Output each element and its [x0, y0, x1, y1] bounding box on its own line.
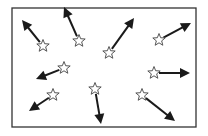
arrow-shaft: [44, 70, 59, 76]
vector-v2: [63, 7, 85, 46]
arrow-shaft: [36, 98, 48, 106]
vector-v4: [153, 23, 191, 45]
vector-v5: [36, 62, 70, 80]
vector-v9: [89, 83, 104, 125]
arrow-shaft: [28, 27, 40, 42]
star-icon: [73, 35, 85, 47]
arrowhead-icon: [29, 101, 40, 111]
vector-v3: [103, 18, 134, 58]
star-icon: [148, 67, 160, 79]
vector-v6: [29, 89, 59, 112]
arrow-shaft: [96, 94, 100, 115]
arrowhead-icon: [94, 113, 104, 124]
arrow-shaft: [112, 25, 129, 49]
arrowhead-icon: [180, 68, 190, 78]
arrow-shaft: [163, 27, 183, 37]
star-icon: [89, 83, 101, 95]
vector-field-diagram: [0, 0, 208, 136]
star-icon: [58, 62, 70, 74]
arrow-shaft: [68, 15, 77, 36]
vector-v1: [22, 20, 49, 51]
vector-v7: [148, 67, 190, 79]
vector-group: [22, 7, 191, 124]
star-icon: [153, 34, 165, 46]
arrow-shaft: [146, 98, 168, 115]
arrowhead-icon: [124, 18, 134, 29]
vector-v8: [136, 89, 175, 122]
